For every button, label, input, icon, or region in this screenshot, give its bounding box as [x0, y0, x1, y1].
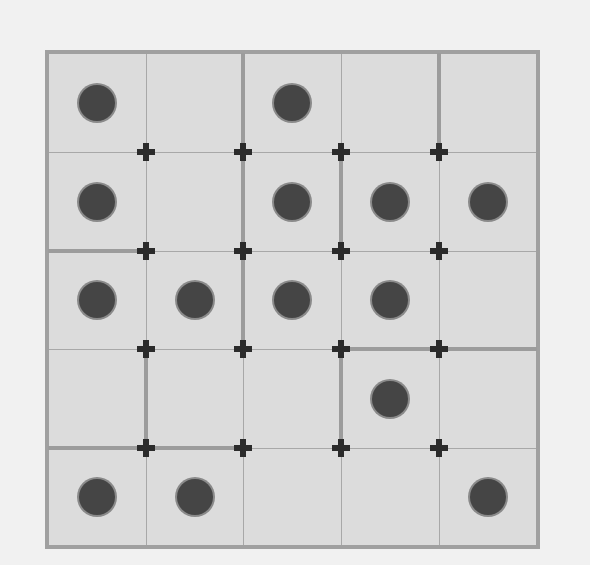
wall-segment: [144, 349, 148, 448]
board-cell[interactable]: [439, 53, 537, 152]
wall-segment: [241, 53, 245, 152]
stone-icon[interactable]: [177, 479, 213, 515]
cross-icon: [234, 242, 252, 260]
cross-icon: [332, 242, 350, 260]
cross-icon: [430, 242, 448, 260]
wall-segment: [339, 152, 343, 251]
stone-icon[interactable]: [79, 282, 115, 318]
cross-icon: [332, 340, 350, 358]
board-cell[interactable]: [146, 53, 243, 152]
cross-icon: [430, 439, 448, 457]
wall-segment: [241, 152, 245, 251]
cross-icon: [137, 143, 155, 161]
board-cell[interactable]: [243, 349, 341, 448]
board-cell[interactable]: [439, 251, 537, 349]
wall-segment: [339, 349, 343, 448]
wall-segment: [341, 347, 439, 351]
board-cell[interactable]: [341, 448, 439, 546]
gridline: [341, 54, 342, 545]
cross-icon: [234, 143, 252, 161]
cross-icon: [137, 242, 155, 260]
board-cell[interactable]: [243, 448, 341, 546]
stone-icon[interactable]: [274, 85, 310, 121]
wall-segment: [241, 251, 245, 349]
stone-icon[interactable]: [274, 184, 310, 220]
board-cell[interactable]: [341, 53, 439, 152]
cross-icon: [137, 340, 155, 358]
wall-segment: [437, 53, 441, 152]
cross-icon: [332, 439, 350, 457]
puzzle-board: [45, 50, 540, 549]
wall-segment: [439, 347, 537, 351]
board-cell[interactable]: [48, 349, 146, 448]
wall-segment: [48, 446, 146, 450]
stone-icon[interactable]: [470, 479, 506, 515]
stone-icon[interactable]: [177, 282, 213, 318]
cross-icon: [332, 143, 350, 161]
stone-icon[interactable]: [79, 85, 115, 121]
wall-segment: [146, 446, 243, 450]
cross-icon: [234, 340, 252, 358]
cross-icon: [430, 143, 448, 161]
cross-icon: [234, 439, 252, 457]
stone-icon[interactable]: [79, 184, 115, 220]
stone-icon[interactable]: [372, 184, 408, 220]
cross-icon: [430, 340, 448, 358]
board-cell[interactable]: [146, 152, 243, 251]
stone-icon[interactable]: [274, 282, 310, 318]
gridline: [49, 152, 536, 153]
stone-icon[interactable]: [372, 282, 408, 318]
wall-segment: [48, 249, 146, 253]
cross-icon: [137, 439, 155, 457]
stone-icon[interactable]: [79, 479, 115, 515]
board-cell[interactable]: [146, 349, 243, 448]
gridline: [146, 54, 147, 545]
board-cell[interactable]: [439, 349, 537, 448]
stone-icon[interactable]: [372, 381, 408, 417]
stone-icon[interactable]: [470, 184, 506, 220]
